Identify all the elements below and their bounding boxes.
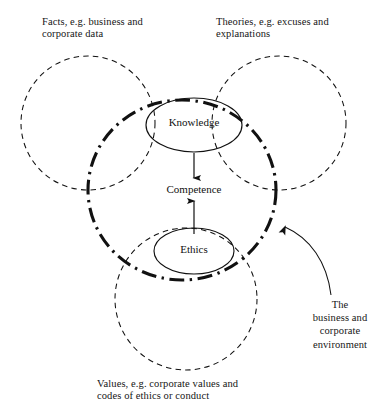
caption-facts: Facts, e.g. business and corporate data [42,16,192,41]
circle-facts [21,56,155,190]
caption-environment: The business and corporate environment [296,298,384,351]
leader-line-environment [285,227,331,295]
node-label-knowledge: Knowledge [145,116,243,128]
caption-values: Values, e.g. corporate values and codes … [97,378,317,403]
diagram-root: Facts, e.g. business and corporate data … [0,0,388,414]
diagram-canvas [0,0,388,414]
caption-theories: Theories, e.g. excuses and explanations [216,16,368,41]
node-label-ethics: Ethics [155,243,233,255]
node-label-competence: Competence [133,183,255,195]
